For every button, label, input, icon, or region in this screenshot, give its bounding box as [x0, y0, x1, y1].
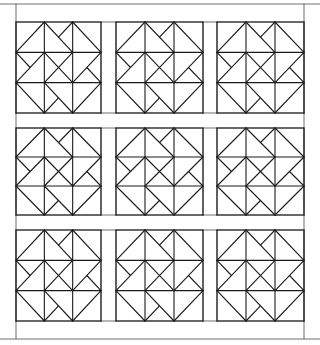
quilt-block: [217, 230, 304, 321]
block-line: [275, 291, 304, 321]
block-line: [73, 230, 101, 260]
block-line: [59, 230, 73, 245]
block-line: [261, 128, 276, 143]
block-line: [290, 276, 305, 291]
block-line: [73, 128, 101, 157]
block-line: [217, 128, 246, 157]
quilt-diagram: [0, 0, 320, 345]
block-line: [189, 68, 204, 83]
block-line: [116, 291, 145, 321]
block-line: [217, 52, 232, 67]
block-line: [246, 98, 261, 113]
block-line: [174, 83, 203, 113]
block-line: [87, 172, 101, 187]
quilt-block: [116, 128, 203, 215]
quilt-blocks: [16, 22, 304, 321]
block-line: [145, 306, 160, 321]
quilt-block: [217, 128, 304, 215]
block-line: [116, 230, 145, 260]
block-line: [16, 260, 30, 275]
block-line: [73, 291, 101, 321]
block-line: [261, 230, 276, 245]
block-line: [290, 68, 305, 83]
block-line: [275, 128, 304, 157]
block-line: [160, 22, 175, 37]
block-line: [275, 230, 304, 260]
block-line: [116, 83, 145, 113]
block-line: [59, 22, 73, 37]
block-line: [174, 186, 203, 215]
block-line: [44, 201, 58, 216]
quilt-block: [16, 230, 101, 321]
block-line: [160, 230, 175, 245]
block-line: [16, 186, 44, 215]
block-line: [217, 291, 246, 321]
block-line: [217, 260, 232, 275]
block-line: [116, 128, 145, 157]
block-line: [16, 22, 44, 52]
block-line: [116, 260, 131, 275]
block-line: [116, 22, 145, 52]
block-line: [16, 128, 44, 157]
block-line: [87, 276, 101, 291]
block-line: [16, 83, 44, 113]
block-line: [189, 276, 204, 291]
block-line: [87, 68, 101, 83]
block-line: [174, 230, 203, 260]
block-line: [275, 83, 304, 113]
block-line: [217, 157, 232, 172]
block-line: [73, 186, 101, 215]
block-line: [145, 201, 160, 216]
block-line: [145, 98, 160, 113]
block-line: [73, 83, 101, 113]
block-line: [217, 83, 246, 113]
block-line: [217, 22, 246, 52]
block-line: [116, 52, 131, 67]
block-line: [246, 201, 261, 216]
block-line: [174, 22, 203, 52]
block-line: [16, 230, 44, 260]
quilt-block: [116, 22, 203, 113]
block-line: [189, 172, 204, 187]
block-line: [116, 186, 145, 215]
block-line: [116, 157, 131, 172]
block-line: [217, 186, 246, 215]
block-line: [16, 291, 44, 321]
block-line: [217, 230, 246, 260]
block-line: [261, 22, 276, 37]
block-line: [246, 306, 261, 321]
quilt-block: [16, 22, 101, 113]
block-line: [44, 98, 58, 113]
block-line: [73, 22, 101, 52]
block-line: [16, 157, 30, 172]
block-line: [59, 128, 73, 143]
block-line: [275, 186, 304, 215]
block-line: [275, 22, 304, 52]
block-line: [160, 128, 175, 143]
block-line: [290, 172, 305, 187]
block-line: [16, 52, 30, 67]
quilt-block: [16, 128, 101, 215]
quilt-block: [116, 230, 203, 321]
block-line: [174, 291, 203, 321]
block-line: [44, 306, 58, 321]
block-line: [174, 128, 203, 157]
quilt-block: [217, 22, 304, 113]
